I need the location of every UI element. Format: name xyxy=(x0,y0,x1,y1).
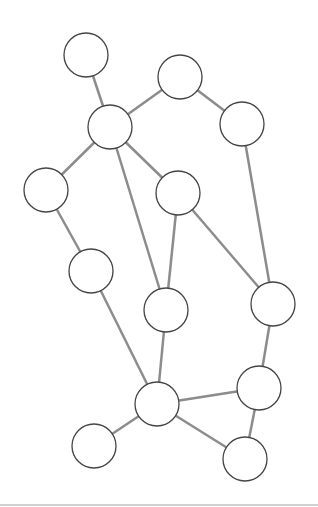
node-n1 xyxy=(64,33,108,77)
node-n10 xyxy=(135,382,179,426)
node-n9 xyxy=(251,282,295,326)
node-n8 xyxy=(144,288,188,332)
node-n3 xyxy=(158,55,202,99)
graph-diagram xyxy=(0,0,318,507)
edge-n4-n9 xyxy=(242,124,273,304)
node-n2 xyxy=(88,105,132,149)
node-n6 xyxy=(156,171,200,215)
node-n13 xyxy=(223,437,267,481)
node-n5 xyxy=(24,168,68,212)
bottom-divider xyxy=(0,504,318,506)
node-n7 xyxy=(69,249,113,293)
node-n4 xyxy=(220,102,264,146)
node-n12 xyxy=(72,424,116,468)
node-n11 xyxy=(237,366,281,410)
